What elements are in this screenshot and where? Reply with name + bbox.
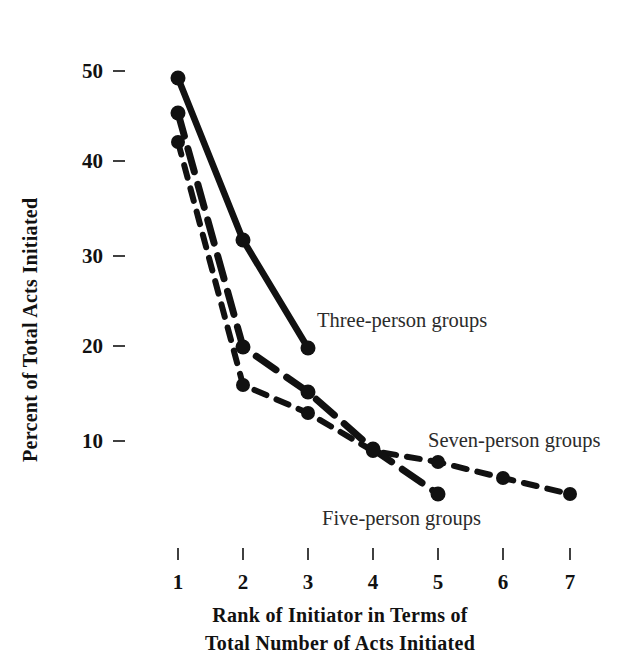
y-axis-title: Percent of Total Acts Initiated: [19, 198, 41, 462]
data-point-seven-3: [301, 406, 315, 420]
data-point-five-4: [366, 442, 381, 457]
x-tick-label-4: 4: [368, 570, 379, 594]
data-point-seven-6: [496, 471, 510, 485]
annotation-seven-person-groups: Seven-person groups: [428, 429, 601, 452]
data-point-five-2: [236, 340, 251, 355]
x-tick-label-2: 2: [238, 570, 249, 594]
data-point-three-3: [301, 341, 316, 356]
line-chart: 50 40 30 20 10 1 2 3 4 5 6 7 Percent of …: [0, 0, 636, 667]
x-tick-label-1: 1: [173, 570, 184, 594]
data-point-five-1: [171, 106, 186, 121]
x-tick-label-7: 7: [565, 570, 576, 594]
data-point-five-3: [301, 385, 316, 400]
x-axis-title-line2: Total Number of Acts Initiated: [205, 632, 475, 654]
y-tick-label-20: 20: [82, 334, 103, 358]
x-tick-label-6: 6: [498, 570, 509, 594]
y-tick-label-40: 40: [82, 149, 103, 173]
y-tick-label-10: 10: [82, 429, 103, 453]
chart-page: 50 40 30 20 10 1 2 3 4 5 6 7 Percent of …: [0, 0, 636, 667]
annotation-five-person-groups: Five-person groups: [322, 507, 481, 530]
annotation-three-person-groups: Three-person groups: [317, 309, 487, 332]
data-point-seven-2: [236, 378, 250, 392]
data-point-five-5: [431, 487, 446, 502]
x-axis-title-line1: Rank of Initiator in Terms of: [212, 604, 468, 626]
y-tick-label-50: 50: [82, 59, 103, 83]
data-point-three-2: [236, 233, 251, 248]
y-tick-label-30: 30: [82, 244, 103, 268]
data-point-three-1: [171, 71, 186, 86]
x-tick-label-5: 5: [433, 570, 444, 594]
x-tick-label-3: 3: [303, 570, 314, 594]
data-point-seven-7: [563, 487, 577, 501]
data-point-seven-5: [431, 455, 445, 469]
series-three-person-groups: [171, 71, 316, 356]
